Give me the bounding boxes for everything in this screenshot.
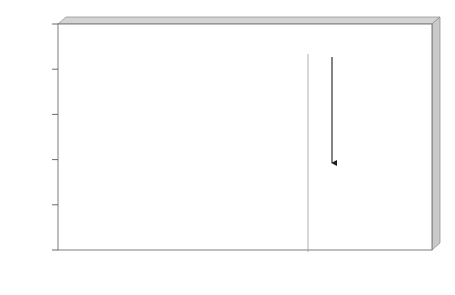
y-axis-ticks bbox=[52, 24, 58, 250]
chart-figure bbox=[0, 0, 455, 295]
plot-3d-box bbox=[58, 17, 440, 250]
std-incidence-line-chart bbox=[0, 0, 455, 295]
y-tick-labels bbox=[10, 0, 44, 295]
